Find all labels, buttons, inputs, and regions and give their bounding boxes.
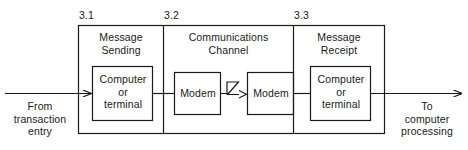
block-flow-diagram: 3.1 3.2 3.3 Message Sending Communicatio… (0, 0, 468, 150)
compartment-title-message-receipt: Message Receipt (294, 31, 384, 56)
step-number-3-1: 3.1 (79, 9, 119, 21)
lightning-zigzag-icon (221, 82, 240, 95)
node-label-computer-terminal-sending: Computer or terminal (93, 73, 153, 111)
compartment-title-message-sending: Message Sending (79, 31, 163, 56)
input-caption-from-transaction-entry: From transaction entry (2, 100, 78, 138)
node-label-modem-right: Modem (248, 87, 294, 100)
output-caption-to-computer-processing: To computer processing (388, 100, 466, 138)
node-label-modem-left: Modem (175, 87, 221, 100)
compartment-title-communications-channel: Communications Channel (164, 31, 293, 56)
step-number-3-3: 3.3 (294, 9, 334, 21)
step-number-3-2: 3.2 (164, 9, 204, 21)
zigzag-arrowhead-icon (239, 91, 247, 99)
node-label-computer-terminal-receipt: Computer or terminal (311, 73, 371, 111)
